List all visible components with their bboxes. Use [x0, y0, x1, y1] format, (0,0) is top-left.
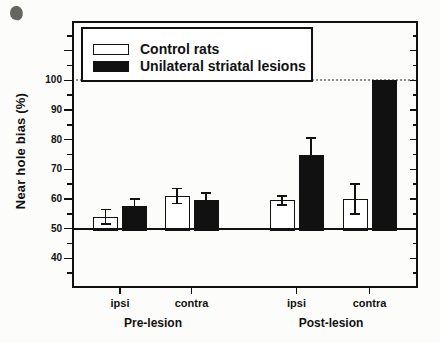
y-axis-tick-left [64, 50, 72, 52]
legend-swatch-lesions [93, 61, 129, 72]
legend-label-control-rats: Control rats [140, 43, 219, 56]
x-category-label: ipsi [90, 297, 150, 309]
y-tick-label: 100 [28, 74, 62, 86]
y-axis-tick-left [67, 94, 72, 96]
error-bar-cap-top [130, 198, 140, 200]
error-bar-cap-bottom [201, 207, 211, 209]
error-bar-line [354, 184, 356, 214]
x-category-label: contra [340, 297, 400, 309]
error-bar-cap-bottom [306, 170, 316, 172]
y-axis-tick-left [67, 183, 72, 185]
x-axis-tick [369, 288, 371, 294]
legend-label-lesions: Unilateral striatal lesions [140, 60, 306, 73]
plot-area: Control rats Unilateral striatal lesions [72, 21, 418, 288]
y-axis-tick-right [410, 198, 418, 200]
y-axis-tick-right [413, 124, 418, 126]
y-axis-tick-left [67, 154, 72, 156]
error-bar-cap-bottom [277, 204, 287, 206]
y-tick-label: 40 [28, 252, 62, 264]
error-bar-cap-top [101, 209, 111, 211]
y-tick-label: 50 [28, 223, 62, 235]
y-axis-tick-left [64, 169, 72, 171]
y-axis-tick-left [64, 228, 72, 230]
y-axis-tick-left [67, 124, 72, 126]
y-axis-tick-left [64, 139, 72, 141]
y-axis-tick-left [64, 109, 72, 111]
y-axis-tick-right [413, 213, 418, 215]
y-axis-tick-right [410, 169, 418, 171]
error-bar-cap-top [350, 183, 360, 185]
legend-entry-control: Control rats [93, 43, 219, 55]
x-category-label: contra [162, 297, 222, 309]
y-axis-tick-right [413, 272, 418, 274]
error-bar-line [176, 189, 178, 204]
y-axis-tick-left [64, 198, 72, 200]
y-axis-tick-left [67, 272, 72, 274]
y-axis-tick-right [410, 228, 418, 230]
y-axis-tick-left [67, 213, 72, 215]
error-bar-cap-top [172, 188, 182, 190]
y-axis-tick-left [67, 35, 72, 37]
error-bar-line [205, 193, 207, 208]
figure: Near hole bias (%) Control rats Unilater… [0, 0, 440, 343]
bar-lesion-3 [372, 80, 397, 230]
y-tick-label: 80 [28, 134, 62, 146]
y-axis-tick-left [67, 65, 72, 67]
y-axis-tick-right [410, 80, 418, 82]
error-bar-line [134, 199, 136, 214]
error-bar-cap-bottom [350, 213, 360, 215]
y-tick-label: 60 [28, 193, 62, 205]
x-group-label: Pre-lesion [108, 317, 198, 330]
error-bar-cap-bottom [130, 213, 140, 215]
y-axis-tick-left [67, 243, 72, 245]
y-tick-label: 90 [28, 104, 62, 116]
legend-swatch-control-rats [93, 44, 129, 55]
x-axis-tick [119, 288, 121, 294]
x-axis-tick [296, 288, 298, 294]
y-axis-tick-left [64, 80, 72, 82]
y-tick-label: 70 [28, 163, 62, 175]
x-axis-tick [191, 288, 193, 294]
x-category-label: ipsi [267, 297, 327, 309]
legend: Control rats Unilateral striatal lesions [81, 27, 313, 82]
baseline-50 [72, 228, 418, 230]
error-bar-line [310, 138, 312, 171]
y-axis-tick-right [413, 183, 418, 185]
y-axis-tick-left [64, 258, 72, 260]
y-axis-tick-right [413, 94, 418, 96]
error-bar-line [105, 209, 107, 224]
y-axis-tick-right [410, 139, 418, 141]
scan-artifact-mark [8, 5, 24, 22]
y-axis-tick-right [413, 35, 418, 37]
y-axis-tick-right [410, 50, 418, 52]
error-bar-cap-top [277, 195, 287, 197]
error-bar-cap-top [306, 137, 316, 139]
y-axis-tick-right [410, 258, 418, 260]
x-group-label: Post-lesion [286, 317, 376, 330]
error-bar-cap-top [201, 192, 211, 194]
error-bar-cap-bottom [172, 203, 182, 205]
y-axis-tick-right [413, 154, 418, 156]
y-axis-tick-right [413, 243, 418, 245]
y-axis-tick-right [410, 109, 418, 111]
y-axis-title: Near hole bias (%) [13, 93, 28, 209]
y-axis-tick-right [413, 65, 418, 67]
error-bar-cap-bottom [101, 223, 111, 225]
legend-entry-lesions: Unilateral striatal lesions [93, 60, 306, 72]
